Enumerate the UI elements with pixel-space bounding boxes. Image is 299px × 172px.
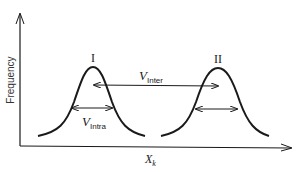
- x-axis-label: Xk: [144, 152, 156, 168]
- peak-curve-2: [161, 68, 269, 136]
- peak-label-1: I: [91, 51, 95, 65]
- peak-label-2: II: [214, 52, 222, 66]
- diagram-canvas: I II VInter VIntra Frequency Xk: [0, 0, 299, 172]
- y-axis-label: Frequency: [5, 56, 16, 103]
- x-axis: [20, 146, 291, 148]
- inter-variance-arrow: [94, 85, 218, 86]
- inter-variance-label: VInter: [139, 68, 163, 85]
- intra-variance-label: VIntra: [82, 114, 107, 131]
